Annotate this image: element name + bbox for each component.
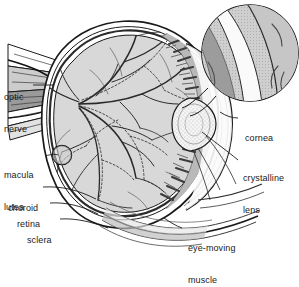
label-crystalline-lens-line2: lens	[243, 205, 284, 216]
label-optic-nerve-line2: nerve	[4, 124, 27, 135]
label-eye-moving-muscle: eye-moving muscle	[188, 222, 236, 287]
label-eye-moving-muscle-line2: muscle	[188, 275, 236, 286]
label-crystalline-lens: crystalline lens	[243, 152, 284, 226]
label-optic-nerve-line1: optic	[4, 92, 27, 103]
label-crystalline-lens-line1: crystalline	[243, 173, 284, 184]
label-cornea-line1: cornea	[245, 133, 273, 144]
leader-eye-muscle	[164, 218, 182, 228]
label-sclera-line1: sclera	[27, 235, 52, 246]
label-optic-nerve: optic nerve	[4, 71, 27, 145]
label-macula-lutea-line1: macula	[4, 170, 34, 181]
label-eye-moving-muscle-line1: eye-moving	[188, 243, 236, 254]
label-sclera: sclera	[27, 214, 52, 256]
macula-lutea-marker	[53, 146, 72, 165]
label-cornea: cornea	[245, 112, 273, 154]
